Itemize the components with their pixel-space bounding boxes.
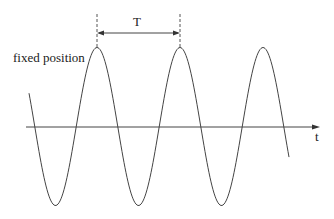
fixed-position-label: fixed position — [13, 50, 85, 66]
period-arrowhead-right — [173, 31, 180, 36]
sine-wave-diagram: T fixed position t — [0, 0, 334, 219]
sine-wave — [29, 48, 289, 206]
time-axis-label: t — [315, 129, 319, 145]
period-arrowhead-left — [97, 31, 104, 36]
period-label: T — [133, 14, 141, 30]
wave-graphic — [0, 0, 334, 219]
